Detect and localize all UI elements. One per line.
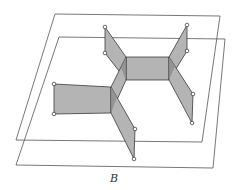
central-rectangle [126, 57, 169, 80]
vertex-point [52, 112, 56, 116]
vertex-point [52, 82, 56, 86]
vertex-point [103, 51, 107, 55]
vertex-point [103, 25, 107, 29]
vertex-point [133, 127, 137, 131]
vertex-point [191, 92, 195, 96]
left-rectangle [54, 84, 111, 114]
vertex-point [190, 121, 194, 125]
plane-label-b: B [110, 172, 118, 185]
vertex-point [185, 23, 189, 27]
faces-group [54, 25, 193, 159]
vertex-point [132, 157, 136, 161]
vertex-point [185, 49, 189, 53]
diagram-canvas [0, 0, 236, 190]
